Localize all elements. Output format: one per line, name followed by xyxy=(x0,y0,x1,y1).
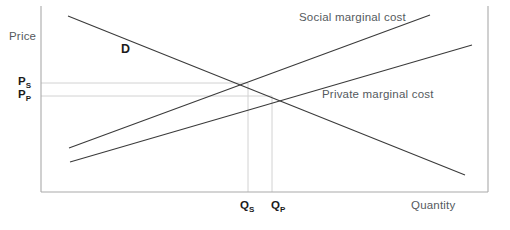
price-private-subscript: P xyxy=(26,94,31,103)
quantity-social-base: Q xyxy=(240,199,249,211)
price-private-base: P xyxy=(18,88,26,100)
social-marginal-cost-label: Social marginal cost xyxy=(299,11,406,23)
y-axis-label: Price xyxy=(9,30,36,42)
private-marginal-cost-label: Private marginal cost xyxy=(322,88,434,100)
quantity-private-subscript: P xyxy=(280,205,285,214)
private-marginal-cost-curve xyxy=(70,45,472,162)
price-private-marker: PP xyxy=(18,88,31,103)
demand-curve-label: D xyxy=(121,42,130,56)
social-marginal-cost-curve xyxy=(69,15,430,148)
quantity-social-marker: QS xyxy=(240,199,254,214)
quantity-private-base: Q xyxy=(271,199,280,211)
externality-diagram: Price Quantity Social marginal cost Priv… xyxy=(0,0,510,230)
x-axis-label: Quantity xyxy=(411,199,455,211)
quantity-social-subscript: S xyxy=(249,205,254,214)
quantity-private-marker: QP xyxy=(271,199,285,214)
chart-canvas xyxy=(0,0,510,230)
price-social-base: P xyxy=(18,75,26,87)
